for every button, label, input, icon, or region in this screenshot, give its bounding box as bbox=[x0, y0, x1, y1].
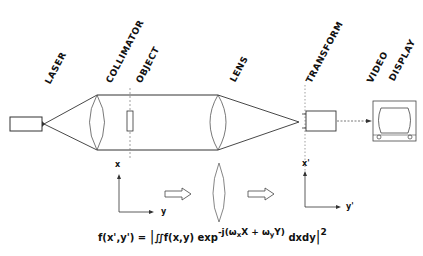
lower-lens bbox=[213, 163, 225, 222]
exponent-prefix: -j(ω bbox=[218, 227, 237, 237]
formula-power: 2 bbox=[320, 227, 326, 237]
fourier-transform-formula: f(x',y') = |∬f(x,y) exp-j(ωxX + ωyY) dxd… bbox=[98, 228, 327, 244]
object-slide bbox=[127, 111, 133, 131]
exponent-mid-2: Y) bbox=[274, 227, 285, 237]
axis-label-x-prime: x' bbox=[302, 159, 310, 168]
transform-lens bbox=[210, 95, 226, 150]
video-monitor-icon bbox=[373, 101, 416, 141]
optical-system-drawing bbox=[0, 0, 423, 256]
hollow-arrow-1 bbox=[165, 188, 191, 200]
axis-label-x: x bbox=[115, 160, 120, 169]
formula-lhs: f(x',y') = bbox=[98, 232, 150, 243]
axis-label-y: y bbox=[161, 207, 166, 216]
formula-differential: dxdy bbox=[285, 232, 316, 243]
formula-integral: ∬f(x,y) exp bbox=[154, 232, 217, 243]
input-axes bbox=[117, 174, 154, 214]
axis-label-y-prime: y' bbox=[346, 202, 354, 211]
hollow-arrow-2 bbox=[248, 188, 274, 200]
optical-fourier-transform-diagram: LASER COLLIMATOR OBJECT LENS TRANSFORM V… bbox=[0, 0, 423, 256]
exponent-mid-1: X + ω bbox=[241, 227, 270, 237]
output-axes bbox=[303, 171, 341, 209]
video-camera-box bbox=[306, 111, 336, 131]
formula-exponent: -j(ωxX + ωyY) bbox=[218, 227, 285, 237]
collimator-lens bbox=[90, 95, 105, 150]
laser-box bbox=[10, 117, 42, 131]
